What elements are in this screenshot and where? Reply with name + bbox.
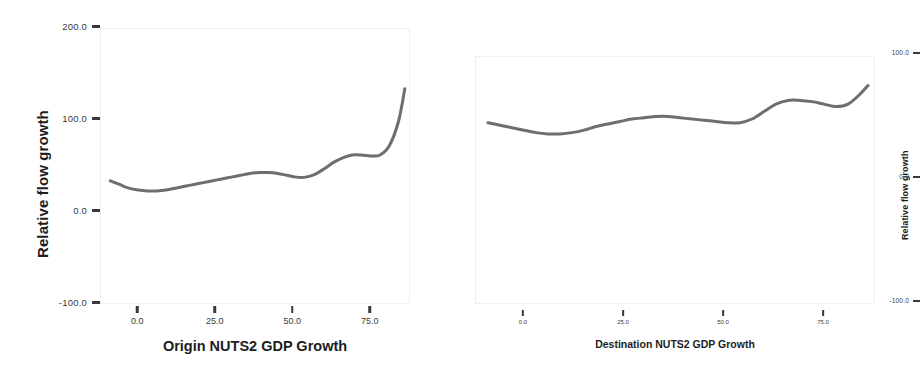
x-tick-mark	[722, 310, 724, 316]
plot-area-left	[100, 28, 410, 304]
y-axis-title-right: Relative flow growth	[900, 150, 910, 240]
x-tick-label: 75.0	[817, 319, 829, 325]
x-tick-mark	[136, 306, 139, 313]
y-tick-mark	[92, 117, 100, 120]
y-tick-label: 200.0	[33, 21, 87, 32]
x-tick-left-3: 75.0	[361, 306, 379, 326]
y-tick-left-0: 200.0	[33, 21, 100, 32]
y-tick-label: 100.0	[875, 49, 909, 56]
x-tick-right-1: 25.0	[617, 310, 629, 325]
y-axis-title-left: Relative flow growth	[34, 110, 51, 258]
x-tick-label: 75.0	[361, 316, 379, 326]
x-tick-right-0: 0.0	[519, 310, 527, 325]
y-tick-right-1: 0.0	[875, 173, 920, 180]
x-tick-mark	[622, 310, 624, 316]
x-tick-mark	[213, 306, 216, 313]
y-tick-mark	[92, 301, 100, 304]
y-tick-right-0: 100.0	[875, 49, 920, 56]
x-tick-mark	[522, 310, 524, 316]
x-tick-right-2: 50.0	[717, 310, 729, 325]
x-tick-label: 25.0	[206, 316, 224, 326]
x-axis-title-right: Destination NUTS2 GDP Growth	[475, 338, 875, 350]
y-tick-label: -100.0	[33, 297, 87, 308]
x-tick-mark	[822, 310, 824, 316]
x-tick-label: 0.0	[131, 316, 144, 326]
x-tick-left-2: 50.0	[283, 306, 301, 326]
x-axis-title-left: Origin NUTS2 GDP Growth	[100, 338, 410, 354]
y-tick-mark	[913, 176, 920, 178]
y-tick-label: -100.0	[875, 297, 909, 304]
y-tick-mark	[92, 25, 100, 28]
x-tick-left-0: 0.0	[131, 306, 144, 326]
line-series-origin	[101, 29, 411, 305]
x-tick-label: 50.0	[717, 319, 729, 325]
x-tick-left-1: 25.0	[206, 306, 224, 326]
plot-area-right	[475, 56, 875, 304]
x-tick-mark	[291, 306, 294, 313]
y-tick-mark	[92, 209, 100, 212]
y-tick-mark	[913, 52, 920, 54]
y-tick-left-3: -100.0	[33, 297, 100, 308]
x-tick-mark	[368, 306, 371, 313]
y-tick-mark	[913, 300, 920, 302]
chart-panel-origin: 200.0100.00.0-100.0 0.025.050.075.0 Rela…	[0, 0, 445, 380]
x-tick-label: 25.0	[617, 319, 629, 325]
x-tick-right-3: 75.0	[817, 310, 829, 325]
line-series-destination	[476, 57, 876, 305]
x-tick-label: 0.0	[519, 319, 527, 325]
x-tick-label: 50.0	[283, 316, 301, 326]
loess-curve-right	[488, 86, 868, 135]
y-tick-right-2: -100.0	[875, 297, 920, 304]
loess-curve-left	[110, 89, 405, 191]
